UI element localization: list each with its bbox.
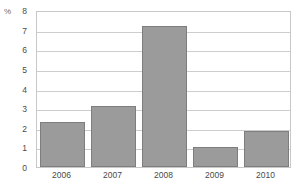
x-axis-tick-2008: 2008 [154, 170, 173, 180]
y-axis-tick-5: 5 [22, 66, 27, 75]
y-axis-tick-8: 8 [22, 7, 27, 16]
bar-2010 [244, 131, 289, 167]
bar-series [37, 12, 290, 167]
y-axis-tick-1: 1 [22, 144, 27, 153]
x-axis-tick-2010: 2010 [256, 170, 275, 180]
bar-2008 [142, 26, 187, 167]
x-axis-tick-2009: 2009 [205, 170, 224, 180]
plot-area [36, 11, 291, 168]
bar-2007 [91, 106, 136, 167]
y-axis-tick-4: 4 [22, 85, 27, 94]
bar-chart: % 012345678 20062007200820092010 [0, 0, 302, 194]
y-axis-tick-6: 6 [22, 46, 27, 55]
bar-2009 [193, 147, 238, 167]
y-axis-tick-labels: 012345678 [0, 0, 36, 194]
y-axis-tick-7: 7 [22, 26, 27, 35]
x-axis-tick-2006: 2006 [52, 170, 71, 180]
y-axis-tick-0: 0 [22, 164, 27, 173]
x-axis-tick-2007: 2007 [103, 170, 122, 180]
y-axis-tick-3: 3 [22, 105, 27, 114]
y-axis-tick-2: 2 [22, 125, 27, 134]
bar-2006 [40, 122, 85, 167]
x-axis-tick-labels: 20062007200820092010 [36, 170, 291, 188]
